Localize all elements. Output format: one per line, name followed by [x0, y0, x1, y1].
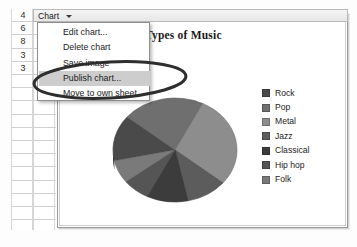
- legend-item: Rock: [262, 86, 354, 100]
- spreadsheet-cell[interactable]: 3: [12, 49, 34, 62]
- menu-item-publish-chart[interactable]: Publish chart...: [39, 71, 150, 86]
- chart-dropdown-menu[interactable]: Edit chart...Delete chartSave imagePubli…: [37, 22, 150, 101]
- spreadsheet-cell[interactable]: 6: [12, 22, 34, 35]
- spreadsheet-cell-empty[interactable]: [12, 181, 34, 194]
- spreadsheet-cell-empty[interactable]: [12, 154, 34, 167]
- spreadsheet-cell-empty[interactable]: [34, 181, 56, 194]
- legend-item: Classical: [262, 144, 354, 158]
- spreadsheet-cell-empty[interactable]: [12, 141, 34, 154]
- spreadsheet-cell-empty[interactable]: [34, 141, 56, 154]
- spreadsheet-cell-empty[interactable]: [34, 154, 56, 167]
- spreadsheet-column-values: 46833: [11, 9, 33, 230]
- spreadsheet-cell[interactable]: 8: [12, 35, 34, 48]
- legend-item: Metal: [262, 115, 354, 129]
- spreadsheet-cell-empty[interactable]: [34, 128, 56, 141]
- legend-swatch-icon: [262, 118, 270, 126]
- menu-item-move-to-own-sheet[interactable]: Move to own sheet...: [39, 86, 150, 101]
- spreadsheet-cell-empty[interactable]: [12, 194, 34, 207]
- legend-label: Folk: [275, 175, 291, 184]
- legend-swatch-icon: [262, 104, 270, 112]
- legend-label: Classical: [275, 146, 309, 155]
- spreadsheet-cell-empty[interactable]: [12, 115, 34, 128]
- spreadsheet-cell-empty[interactable]: [34, 101, 56, 114]
- legend-item: Folk: [262, 172, 354, 186]
- chevron-down-icon: [66, 15, 72, 18]
- spreadsheet-cell-empty[interactable]: [34, 115, 56, 128]
- chart-menubar[interactable]: Chart: [33, 9, 348, 22]
- spreadsheet-cell-empty[interactable]: [34, 207, 56, 220]
- legend-label: Rock: [275, 89, 295, 98]
- legend-item: Pop: [262, 100, 354, 114]
- legend-label: Hip hop: [275, 161, 305, 170]
- spreadsheet-cell[interactable]: 3: [12, 62, 34, 75]
- legend-swatch-icon: [262, 161, 270, 169]
- legend-label: Pop: [275, 103, 290, 112]
- legend-label: Metal: [275, 117, 296, 126]
- spreadsheet-cell-empty[interactable]: [12, 207, 34, 220]
- menu-item-edit-chart[interactable]: Edit chart...: [39, 25, 150, 40]
- spreadsheet-cell-empty[interactable]: [34, 167, 56, 180]
- spreadsheet-cell-empty[interactable]: [12, 128, 34, 141]
- legend-item: Hip hop: [262, 158, 354, 172]
- legend-swatch-icon: [262, 89, 270, 97]
- chart-legend: RockPopMetalJazzClassicalHip hopFolk: [262, 86, 354, 187]
- spreadsheet-cell[interactable]: 4: [12, 9, 34, 22]
- menu-item-save-image[interactable]: Save image: [39, 56, 150, 71]
- legend-swatch-icon: [262, 147, 270, 155]
- legend-swatch-icon: [262, 176, 270, 184]
- legend-label: Jazz: [275, 132, 293, 141]
- menu-item-delete-chart[interactable]: Delete chart: [39, 40, 150, 55]
- legend-item: Jazz: [262, 129, 354, 143]
- spreadsheet-cell-empty[interactable]: [34, 194, 56, 207]
- spreadsheet-cell-empty[interactable]: [12, 167, 34, 180]
- spreadsheet-cell-empty[interactable]: [12, 88, 34, 101]
- screenshot-root: 46833 Types of Music RockPopMetalJazzCla…: [0, 0, 357, 247]
- spreadsheet-cell-empty[interactable]: [12, 101, 34, 114]
- chart-menu-label: Chart: [38, 11, 59, 22]
- legend-swatch-icon: [262, 132, 270, 140]
- chart-title: Types of Music: [145, 29, 222, 41]
- spreadsheet-cell-empty[interactable]: [12, 75, 34, 88]
